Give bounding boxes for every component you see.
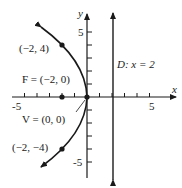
y-tick-label-neg5: -5	[73, 156, 83, 168]
y-axis-label: y	[77, 7, 83, 19]
focus-label: F = (−2, 0)	[22, 73, 70, 86]
vertex-dot	[84, 94, 89, 99]
upper-point-dot	[59, 42, 64, 47]
x-axis-label: x	[171, 83, 177, 95]
x-tick-label-5: 5	[149, 100, 155, 112]
directrix-label: D: x = 2	[116, 58, 155, 70]
focus-dot	[59, 94, 64, 99]
vertex-leader	[76, 100, 85, 112]
x-tick-label-neg5: -5	[12, 100, 22, 112]
upper-point-label: (−2, 4)	[19, 42, 49, 55]
y-tick-label-5: 5	[78, 26, 84, 38]
lower-point-dot	[59, 146, 64, 151]
vertex-label: V = (0, 0)	[22, 113, 66, 126]
parabola-diagram: x y -5 5 5 -5 (−2, 4) F = (−2, 0) V = (0…	[0, 0, 182, 188]
lower-point-label: (−2, −4)	[12, 141, 49, 154]
